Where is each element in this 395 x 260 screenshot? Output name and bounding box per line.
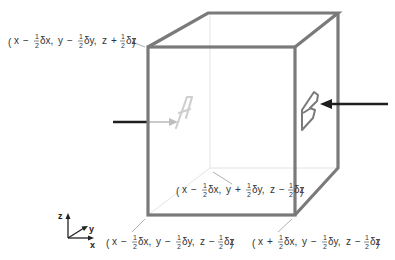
corner-label-bottom-front-left: ( x − 1 2 δx, y − 1 2 δy, z − 1 2 δz ) xyxy=(106,234,235,250)
svg-text:−: − xyxy=(355,236,361,247)
svg-text:1: 1 xyxy=(35,33,39,40)
cube-edges xyxy=(148,13,338,215)
svg-text:2: 2 xyxy=(203,191,207,198)
axis-y-label: y xyxy=(89,224,94,234)
svg-text:y: y xyxy=(302,236,307,247)
svg-text:2: 2 xyxy=(365,243,369,250)
svg-text:2: 2 xyxy=(323,243,327,250)
svg-text:(: ( xyxy=(252,238,256,249)
svg-text:x: x xyxy=(112,236,117,247)
svg-text:δx,: δx, xyxy=(40,35,53,46)
svg-text:1: 1 xyxy=(289,182,293,189)
svg-text:2: 2 xyxy=(289,191,293,198)
svg-text:+: + xyxy=(111,35,117,46)
axis-z-label: z xyxy=(58,211,63,221)
face-b-label xyxy=(302,92,318,130)
svg-text:δy,: δy, xyxy=(84,35,97,46)
face-a-label xyxy=(176,97,192,128)
svg-text:(: ( xyxy=(8,37,12,48)
svg-text:1: 1 xyxy=(247,182,251,189)
svg-text:1: 1 xyxy=(133,234,137,241)
svg-text:δy,: δy, xyxy=(328,236,341,247)
svg-text:−: − xyxy=(311,236,317,247)
axis-x-label: x xyxy=(90,240,95,250)
svg-text:1: 1 xyxy=(203,182,207,189)
svg-text:z: z xyxy=(346,236,351,247)
svg-text:x: x xyxy=(14,35,19,46)
svg-text:2: 2 xyxy=(279,243,283,250)
arrow-into-face-b xyxy=(320,99,388,109)
svg-text:2: 2 xyxy=(247,191,251,198)
svg-text:1: 1 xyxy=(365,234,369,241)
svg-text:1: 1 xyxy=(323,234,327,241)
svg-text:1: 1 xyxy=(79,33,83,40)
svg-text:+: + xyxy=(235,184,241,195)
svg-text:δx,: δx, xyxy=(284,236,297,247)
svg-text:): ) xyxy=(300,186,303,197)
leader-lines xyxy=(132,42,292,232)
svg-text:δx,: δx, xyxy=(138,236,151,247)
svg-text:y: y xyxy=(156,236,161,247)
corner-label-back-bottom-left: ( x − 1 2 δx, y + 1 2 δy, z − 1 2 δz ) xyxy=(176,182,305,198)
svg-text:z: z xyxy=(200,236,205,247)
svg-text:1: 1 xyxy=(121,33,125,40)
svg-text:(: ( xyxy=(106,238,110,249)
svg-text:1: 1 xyxy=(177,234,181,241)
svg-text:1: 1 xyxy=(279,234,283,241)
svg-text:): ) xyxy=(230,238,233,249)
svg-text:−: − xyxy=(165,236,171,247)
svg-text:−: − xyxy=(191,184,197,195)
corner-label-bottom-front-right: ( x + 1 2 δx, y − 1 2 δy, z − 1 2 δz ) xyxy=(252,234,381,250)
svg-text:δy,: δy, xyxy=(252,184,265,195)
svg-text:δy,: δy, xyxy=(182,236,195,247)
svg-text:z: z xyxy=(102,35,107,46)
svg-text:z: z xyxy=(270,184,275,195)
svg-text:x: x xyxy=(182,184,187,195)
svg-text:−: − xyxy=(67,35,73,46)
svg-text:+: + xyxy=(267,236,273,247)
svg-text:δx,: δx, xyxy=(208,184,221,195)
hidden-edges xyxy=(148,13,338,215)
cube-diagram: ( x − 1 2 δx, y − 1 2 δy, z + 1 2 δz ) (… xyxy=(0,0,395,260)
svg-text:y: y xyxy=(226,184,231,195)
svg-text:): ) xyxy=(376,238,379,249)
svg-text:−: − xyxy=(209,236,215,247)
svg-text:x: x xyxy=(258,236,263,247)
svg-text:−: − xyxy=(121,236,127,247)
svg-text:2: 2 xyxy=(177,243,181,250)
svg-text:2: 2 xyxy=(35,42,39,49)
svg-text:y: y xyxy=(58,35,63,46)
arrow-into-face-a xyxy=(113,118,178,126)
svg-text:1: 1 xyxy=(219,234,223,241)
svg-text:2: 2 xyxy=(133,243,137,250)
svg-text:2: 2 xyxy=(79,42,83,49)
svg-text:2: 2 xyxy=(219,243,223,250)
corner-label-top-front-left: ( x − 1 2 δx, y − 1 2 δy, z + 1 2 δz ) xyxy=(8,33,137,49)
svg-text:−: − xyxy=(23,35,29,46)
svg-text:−: − xyxy=(279,184,285,195)
svg-text:): ) xyxy=(132,37,135,48)
svg-text:2: 2 xyxy=(121,42,125,49)
